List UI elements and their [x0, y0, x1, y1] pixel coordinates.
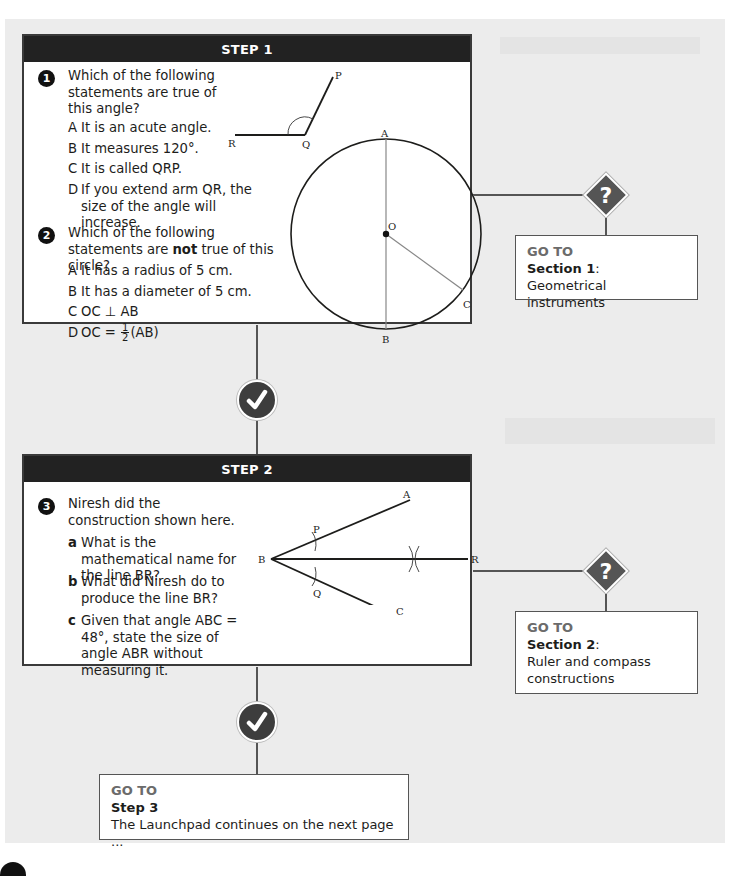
- goto-section1-box[interactable]: GO TO Section 1: Geometrical instruments: [515, 235, 698, 300]
- question-mark-icon: ?: [582, 171, 630, 219]
- question-3-text: Niresh did the construction shown here.: [68, 496, 238, 529]
- label-a: A: [402, 489, 411, 500]
- step1-header: STEP 1: [24, 36, 470, 62]
- connector-line: [605, 218, 607, 236]
- svg-text:C: C: [396, 606, 404, 617]
- step2-header: STEP 2: [24, 456, 470, 482]
- goto-section: Section 1:: [527, 260, 686, 277]
- question-number-2: 2: [38, 227, 55, 244]
- label-p: P: [313, 524, 320, 535]
- circle-diagram: A B O C: [285, 128, 485, 343]
- label-r: R: [471, 554, 479, 565]
- label-q: Q: [313, 588, 321, 599]
- goto-label: GO TO: [527, 619, 686, 636]
- checkmark-glyph: [244, 387, 270, 413]
- goto-title: Geometrical instruments: [527, 277, 686, 311]
- checkmark-glyph: [244, 709, 270, 735]
- check-icon: [237, 702, 277, 742]
- label-p: P: [335, 70, 342, 81]
- q1-option-b: BIt measures 120°.: [68, 141, 199, 158]
- q2-option-d: DOC = 12(AB): [68, 323, 159, 342]
- ghost-header-bar: [500, 37, 700, 54]
- question-1-text: Which of the following statements are tr…: [68, 68, 218, 118]
- label-c: C: [463, 299, 471, 310]
- goto-title: The Launchpad continues on the next page…: [111, 816, 397, 850]
- label-o: O: [388, 221, 396, 232]
- question-diamond-1: ?: [582, 171, 630, 219]
- label-b: B: [258, 554, 265, 565]
- check-icon: [237, 380, 277, 420]
- label-c-holder: C: [390, 595, 410, 625]
- q1-option-a: AIt is an acute angle.: [68, 120, 212, 137]
- q3-part-c: cGiven that angle ABC = 48°, state the s…: [68, 613, 243, 679]
- q3-part-b: bWhat did Niresh do to produce the line …: [68, 574, 238, 607]
- label-r: R: [228, 138, 236, 149]
- connector-line: [605, 594, 607, 612]
- goto-step3-box[interactable]: GO TO Step 3 The Launchpad continues on …: [99, 774, 409, 840]
- connector-line: [473, 570, 583, 572]
- q2-option-b: BIt has a diameter of 5 cm.: [68, 284, 252, 301]
- label-b: B: [382, 334, 389, 343]
- goto-section2-box[interactable]: GO TO Section 2: Ruler and compass const…: [515, 611, 698, 694]
- q2-option-c: COC ⊥ AB: [68, 304, 139, 321]
- page-marker-dot: [0, 862, 26, 876]
- goto-title: Ruler and compass constructions: [527, 653, 686, 687]
- label-a: A: [380, 128, 389, 139]
- ghost-header-bar: [505, 418, 715, 444]
- question-mark-icon: ?: [582, 547, 630, 595]
- connector-line: [473, 194, 583, 196]
- goto-label: GO TO: [527, 243, 686, 260]
- goto-section: Step 3: [111, 799, 397, 816]
- question-number-3: 3: [38, 498, 55, 515]
- question-number-1: 1: [38, 70, 55, 87]
- question-diamond-2: ?: [582, 547, 630, 595]
- q2-option-a: AIt has a radius of 5 cm.: [68, 263, 233, 280]
- angle-bisector-diagram: B A P Q R C: [255, 485, 485, 605]
- q1-option-c: CIt is called QRP.: [68, 161, 182, 178]
- goto-label: GO TO: [111, 782, 397, 799]
- fraction-one-half: 12: [121, 323, 129, 342]
- goto-section: Section 2:: [527, 636, 686, 653]
